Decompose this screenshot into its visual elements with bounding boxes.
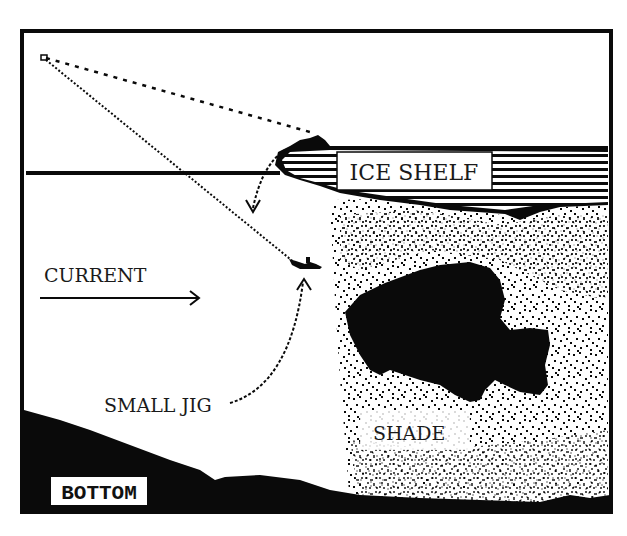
bottom-label: BOTTOM — [61, 482, 137, 505]
shade-label: SHADE — [373, 422, 445, 444]
current-label: CURRENT — [44, 264, 147, 286]
small-jig-label: SMALL JIG — [104, 394, 212, 416]
ice-shelf-label: ICE SHELF — [350, 160, 479, 185]
ice-fishing-diagram: ICE SHELF CURRENT SMALL JIG SHADE BOTTOM — [0, 0, 627, 536]
